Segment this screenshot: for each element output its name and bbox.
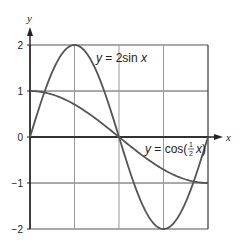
x-axis-arrow-icon	[214, 134, 223, 140]
y-tick-label: −1	[12, 178, 24, 189]
y-tick-label: 1	[17, 86, 23, 97]
svg-text:y = cos(: y = cos(	[144, 142, 187, 156]
x-axis-label: x	[225, 131, 231, 143]
function-graph: 210−1−2 y x y = 2sin x y = cos( 1 2 x)	[0, 0, 242, 242]
y-tick-label: 0	[17, 132, 23, 143]
sine-curve-label: y = 2sin x	[95, 51, 148, 65]
cosine-curve-label: y = cos( 1 2 x)	[144, 141, 206, 157]
y-axis-label: y	[26, 12, 32, 24]
y-tick-label: 2	[17, 40, 23, 51]
fraction-numerator: 1	[189, 141, 193, 148]
y-tick-labels: 210−1−2	[12, 40, 30, 235]
svg-text:x): x)	[195, 142, 206, 156]
y-axis-arrow-icon	[27, 27, 33, 36]
fraction-denominator: 2	[189, 150, 193, 157]
y-tick-label: −2	[12, 224, 24, 235]
